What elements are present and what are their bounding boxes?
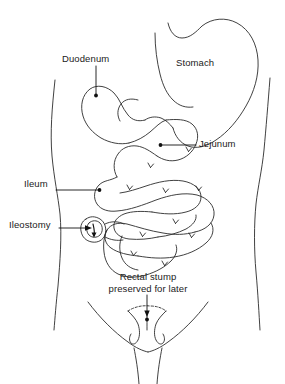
label-duodenum: Duodenum: [62, 53, 109, 64]
label-ileostomy: Ileostomy: [9, 219, 51, 230]
label-ileum: Ileum: [24, 178, 48, 189]
label-rectal-stump: Rectal stump preserved for later: [106, 271, 190, 294]
arrowhead-ileostomy: [85, 225, 92, 231]
anatomy-diagram-svg: [0, 0, 285, 384]
label-rectal-stump-line1: Rectal stump: [106, 271, 190, 283]
dot-jejunum: [159, 143, 163, 147]
dot-ileum: [98, 188, 102, 192]
label-stomach: Stomach: [176, 57, 214, 68]
stomach: [145, 19, 258, 147]
dot-rectal-stump: [145, 318, 149, 322]
jejunum: [114, 119, 198, 177]
dot-duodenum: [94, 94, 98, 98]
label-jejunum: Jejunum: [199, 138, 236, 149]
ileum-loops: [95, 177, 215, 277]
anatomy-diagram-page: Duodenum Stomach Jejunum Ileum Ileostomy…: [0, 0, 285, 384]
label-rectal-stump-line2: preserved for later: [106, 283, 190, 295]
arrowhead-rectal-stump: [144, 311, 149, 318]
